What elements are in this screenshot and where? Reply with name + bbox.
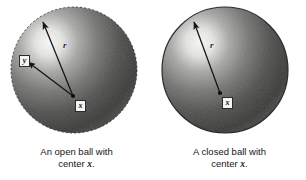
open-ball-graphic [0,0,153,140]
open-ball-panel: y r x An open ball with center x. [0,0,153,180]
ball-figure: y r x An open ball with center x. [0,0,306,180]
closed-ball-caption-line2-prefix: center [211,158,240,169]
open-ball-caption-line2-suffix: . [92,158,95,169]
open-ball-center-dot [71,94,75,98]
open-ball-point-label: y [19,55,30,67]
closed-ball-graphic [153,0,306,140]
closed-ball-panel: r x A closed ball with center x. [153,0,306,180]
open-ball-caption: An open ball with center x. [0,146,153,170]
open-ball-stage: y r x [0,0,153,140]
open-ball-caption-line2-prefix: center [58,158,87,169]
closed-ball-caption-line2-suffix: . [245,158,248,169]
closed-ball-stage: r x [153,0,306,140]
open-ball-grain [0,0,153,140]
open-ball-center-label: x [75,100,86,112]
closed-ball-caption-line2: center x. [153,158,306,170]
open-ball-caption-line2: center x. [0,158,153,170]
closed-ball-center-dot [218,91,222,95]
closed-ball-radius-label: r [210,41,214,50]
closed-ball-caption-line1: A closed ball with [153,146,306,158]
closed-ball-grain [153,0,306,140]
closed-ball-caption: A closed ball with center x. [153,146,306,170]
closed-ball-center-label: x [222,97,233,109]
open-ball-radius-label: r [63,41,67,50]
open-ball-caption-line1: An open ball with [0,146,153,158]
